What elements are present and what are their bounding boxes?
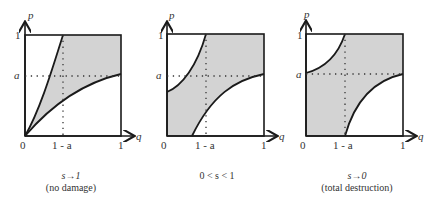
caption-panel-1: s→1 (no damage) bbox=[1, 170, 141, 194]
tick-origin: 0 bbox=[20, 139, 26, 151]
tick-y-a: a bbox=[14, 69, 20, 81]
panel-no-damage: p q 1 a 0 1 - a 1 bbox=[14, 9, 142, 151]
tick-y-a: a bbox=[296, 68, 302, 80]
tick-x-1: 1 bbox=[400, 139, 406, 151]
axis-label-p: p bbox=[168, 9, 175, 21]
tick-x-1-minus-a: 1 - a bbox=[195, 139, 215, 151]
caption-description: (no damage) bbox=[1, 182, 141, 194]
tick-origin: 0 bbox=[300, 139, 306, 151]
tick-x-1: 1 bbox=[118, 139, 124, 151]
axis-label-q: q bbox=[136, 130, 142, 142]
caption-panel-2: 0 < s < 1 bbox=[147, 170, 287, 182]
panel-partial-damage: p q 1 a 0 1 - a 1 bbox=[156, 9, 285, 151]
diagram-canvas: p q 1 a 0 1 - a 1 p q 1 a 0 1 - a 1 p q bbox=[0, 0, 441, 198]
tick-y-1: 1 bbox=[158, 29, 164, 41]
tick-x-1-minus-a: 1 - a bbox=[333, 139, 353, 151]
tick-origin: 0 bbox=[161, 139, 167, 151]
axis-label-p: p bbox=[27, 9, 34, 21]
axis-label-p: p bbox=[303, 8, 310, 20]
caption-condition: 0 < s < 1 bbox=[147, 170, 287, 182]
caption-condition: s→1 bbox=[1, 170, 141, 182]
axis-label-q: q bbox=[418, 130, 424, 142]
caption-description: (total destruction) bbox=[287, 182, 427, 194]
axis-label-q: q bbox=[279, 130, 285, 142]
shaded-region bbox=[167, 34, 264, 136]
caption-panel-3: s→0 (total destruction) bbox=[287, 170, 427, 194]
tick-x-1: 1 bbox=[261, 139, 267, 151]
tick-y-a: a bbox=[156, 69, 162, 81]
tick-y-1: 1 bbox=[297, 29, 303, 41]
shaded-region bbox=[306, 34, 403, 136]
tick-x-1-minus-a: 1 - a bbox=[52, 139, 72, 151]
caption-condition: s→0 bbox=[287, 170, 427, 182]
panel-total-destruction: p q 1 a 0 1 - a 1 bbox=[296, 8, 424, 151]
tick-y-1: 1 bbox=[15, 29, 21, 41]
